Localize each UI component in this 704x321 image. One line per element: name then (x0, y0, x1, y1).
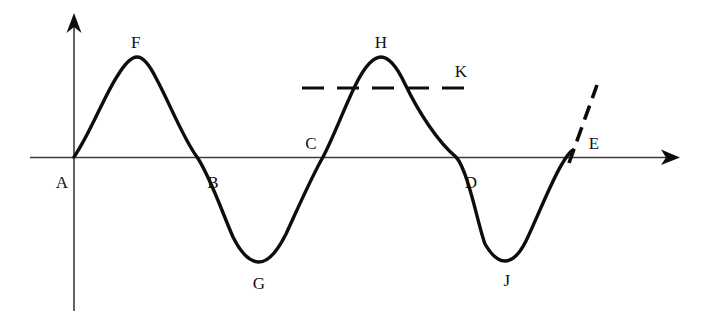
figure-canvas (0, 0, 704, 321)
point-label-C: C (305, 135, 317, 152)
point-label-E: E (589, 135, 600, 152)
vertical-axis (67, 13, 82, 311)
point-label-G: G (253, 275, 266, 292)
point-label-K: K (455, 63, 468, 80)
point-label-B: B (207, 174, 219, 191)
point-label-D: D (465, 174, 478, 191)
point-label-F: F (131, 34, 141, 51)
point-label-J: J (504, 272, 511, 289)
point-label-A: A (56, 174, 69, 191)
horizontal-axis (30, 150, 680, 166)
sine-wave-figure: A B C D E F G H J K (0, 0, 704, 321)
point-label-H: H (375, 34, 388, 51)
